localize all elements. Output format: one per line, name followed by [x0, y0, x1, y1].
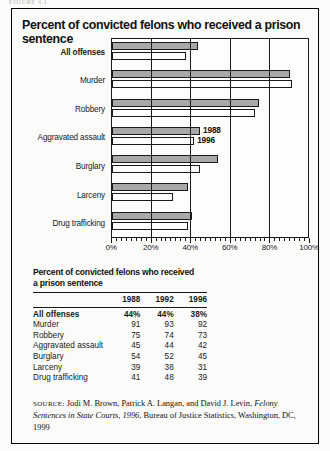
legend-label-1988: 1988: [202, 125, 222, 135]
x-tick-minor: [289, 238, 290, 241]
bar-1988: [112, 42, 198, 50]
bar-1996: [112, 109, 255, 117]
x-tick-minor: [136, 238, 137, 241]
table-row: Aggravated assault454442: [33, 341, 207, 352]
x-tick-minor: [121, 238, 122, 241]
x-tick-minor: [220, 238, 221, 241]
category-axis-labels: All offensesMurderRobberyAggravated assa…: [12, 38, 108, 238]
x-tick-minor: [200, 238, 201, 241]
table-cell-value: 31: [174, 363, 207, 374]
x-tick-minor: [225, 238, 226, 241]
bar-group: [112, 180, 308, 208]
x-axis-tick-label: 80%: [262, 243, 277, 252]
x-tick-minor: [141, 238, 142, 241]
table-row-label: Burglary: [33, 352, 107, 363]
table-column-header: [33, 293, 107, 308]
source-label: SOURCE:: [33, 400, 65, 408]
table-row: Larceny393831: [33, 363, 207, 374]
figure-frame: Percent of convicted felons who received…: [11, 8, 319, 444]
table-cell-value: 44%: [140, 307, 173, 320]
x-tick-minor: [170, 238, 171, 241]
category-label-text: Burglary: [76, 162, 105, 171]
table-row: Burglary545245: [33, 352, 207, 363]
table-header-row: 198819921996: [33, 293, 207, 308]
x-tick-minor: [279, 238, 280, 241]
figure-number: FIGURE 4.1: [9, 0, 47, 5]
table-cell-value: 48: [140, 373, 173, 384]
x-tick-minor: [215, 238, 216, 241]
bar-1996: [112, 165, 200, 173]
table-row: Murder919392: [33, 320, 207, 331]
table-cell-value: 75: [107, 331, 140, 342]
table-cell-value: 52: [140, 352, 173, 363]
bar-1988: [112, 127, 200, 135]
category-label: Murder: [12, 67, 108, 96]
table-cell-value: 39: [107, 363, 140, 374]
bar-group: [112, 152, 308, 180]
x-tick-minor: [175, 238, 176, 241]
table-cell-value: 93: [140, 320, 173, 331]
source-authors: Jodi M. Brown, Patrick A. Langan, and Da…: [65, 399, 255, 408]
table-column-header: 1988: [107, 293, 140, 308]
table-row: All offenses44%44%38%: [33, 307, 207, 320]
table-cell-value: 74: [140, 331, 173, 342]
table-cell-value: 92: [174, 320, 207, 331]
x-tick-major: [190, 238, 191, 243]
category-label-text: All offenses: [60, 48, 105, 57]
gridline: [269, 39, 270, 237]
category-label-text: Aggravated assault: [38, 133, 105, 142]
category-label: Larceny: [12, 181, 108, 210]
x-tick-minor: [294, 238, 295, 241]
x-axis-tick-label: 100%: [299, 243, 319, 252]
x-tick-minor: [304, 238, 305, 241]
bar-1996: [112, 52, 186, 60]
x-tick-minor: [131, 238, 132, 241]
bar-group: [112, 96, 308, 124]
x-axis-tick-label: 60%: [222, 243, 237, 252]
category-label-text: Drug trafficking: [52, 219, 105, 228]
x-tick-minor: [264, 238, 265, 241]
category-label: Robbery: [12, 95, 108, 124]
bar-group: [112, 67, 308, 95]
x-axis-tick-label: 0%: [105, 243, 116, 252]
bar-group: [112, 209, 308, 237]
table-cell-value: 39: [174, 373, 207, 384]
category-label-text: Robbery: [75, 105, 105, 114]
table-cell-value: 41: [107, 373, 140, 384]
category-label: Drug trafficking: [12, 209, 108, 238]
bar-1988: [112, 155, 218, 163]
table-cell-value: 38%: [174, 307, 207, 320]
x-tick-major: [230, 238, 231, 243]
table-cell-value: 54: [107, 352, 140, 363]
category-label: Burglary: [12, 152, 108, 181]
bar-1988: [112, 99, 259, 107]
x-tick-minor: [250, 238, 251, 241]
category-label-text: Larceny: [77, 191, 105, 200]
bar-1996: [112, 193, 173, 201]
x-tick-minor: [126, 238, 127, 241]
legend-label-1996: 1996: [196, 135, 216, 145]
table-row-label: Aggravated assault: [33, 341, 107, 352]
bar-1996: [112, 80, 292, 88]
x-tick-minor: [284, 238, 285, 241]
x-tick-minor: [235, 238, 236, 241]
x-tick-minor: [299, 238, 300, 241]
table-title-line-2: a prison sentence: [33, 278, 208, 289]
x-tick-major: [111, 238, 112, 243]
table-row: Robbery757473: [33, 331, 207, 342]
category-label: Aggravated assault: [12, 124, 108, 153]
x-tick-minor: [185, 238, 186, 241]
table-column-header: 1996: [174, 293, 207, 308]
x-tick-minor: [180, 238, 181, 241]
x-tick-major: [269, 238, 270, 243]
table-cell-value: 44%: [107, 307, 140, 320]
source-note: SOURCE: Jodi M. Brown, Patrick A. Langan…: [33, 398, 305, 433]
table-row-label: Drug trafficking: [33, 373, 107, 384]
table-cell-value: 42: [174, 341, 207, 352]
table-cell-value: 45: [107, 341, 140, 352]
x-tick-minor: [195, 238, 196, 241]
data-table: 198819921996 All offenses44%44%38%Murder…: [33, 292, 207, 384]
x-tick-minor: [165, 238, 166, 241]
table-body: All offenses44%44%38%Murder919392Robbery…: [33, 307, 207, 384]
table-row-label: Larceny: [33, 363, 107, 374]
